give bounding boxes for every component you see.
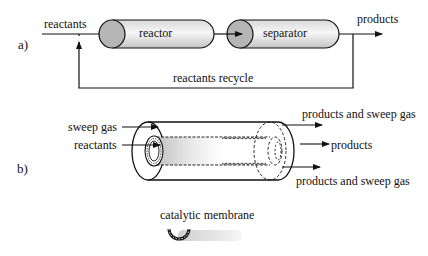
separator-label: separator [263, 26, 307, 40]
products-label: products [357, 12, 398, 26]
panel-a-label: a) [18, 38, 28, 52]
recycle-label: reactants recycle [173, 71, 253, 85]
legend-catalytic-membrane [169, 229, 242, 241]
bottom-outlet-label: products and sweep gas [296, 174, 410, 188]
panel-b-label: b) [17, 162, 28, 176]
inlet-label: reactants [44, 17, 87, 31]
panel-b-membrane-reactor [122, 122, 329, 180]
legend-label: catalytic membrane [160, 208, 254, 222]
top-outlet-label: products and sweep gas [302, 107, 416, 121]
sweep-gas-label: sweep gas [68, 120, 117, 134]
reactor-label: reactor [139, 26, 172, 40]
reactants-label: reactants [74, 138, 117, 152]
center-outlet-label: products [331, 138, 372, 152]
